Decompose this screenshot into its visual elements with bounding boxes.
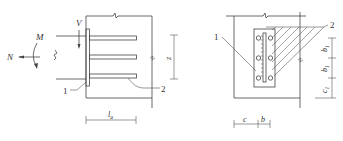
normal-force-label: N	[6, 52, 14, 62]
anchor-bars	[90, 36, 137, 78]
spacing-b-label: b	[261, 115, 265, 124]
steel-web	[263, 33, 266, 82]
spacing-b1-mid-label: b1	[320, 65, 330, 72]
concrete-member-outline	[86, 13, 155, 108]
edge-c1-label: c1	[320, 86, 330, 93]
callout-anchor-leader	[128, 78, 160, 88]
embedded-plate	[86, 29, 90, 86]
anchor-bar-heads	[256, 36, 272, 80]
steel-member	[54, 36, 86, 79]
diagram-canvas: V N M 1 2 z	[0, 0, 343, 141]
callout-anchor-label: 2	[161, 84, 166, 94]
moment-arrow-icon	[33, 43, 38, 69]
callout-plate-front-leader	[222, 37, 256, 71]
normal-force-arrow-icon	[18, 56, 40, 59]
left-figure: V N M 1 2 z	[6, 13, 178, 124]
edge-c-label: c	[243, 115, 247, 124]
embedded-plate-front	[254, 29, 275, 87]
spacing-b1-top-label: b1	[320, 45, 330, 52]
callout-plate-leader	[77, 82, 86, 90]
callout-plate-label: 1	[63, 86, 68, 96]
shear-label: V	[76, 18, 83, 28]
right-figure: 1 2 b1 b1 c1 c b	[214, 12, 336, 128]
callout-anchor-front-label: 2	[330, 20, 335, 30]
lever-arm-label: z	[164, 56, 173, 61]
anchor-length-label: la	[108, 110, 113, 120]
callout-plate-front-label: 1	[214, 32, 219, 42]
moment-label: M	[35, 32, 44, 42]
shear-arrow-icon	[78, 30, 81, 49]
callout-anchor-front-leader	[324, 25, 328, 27]
